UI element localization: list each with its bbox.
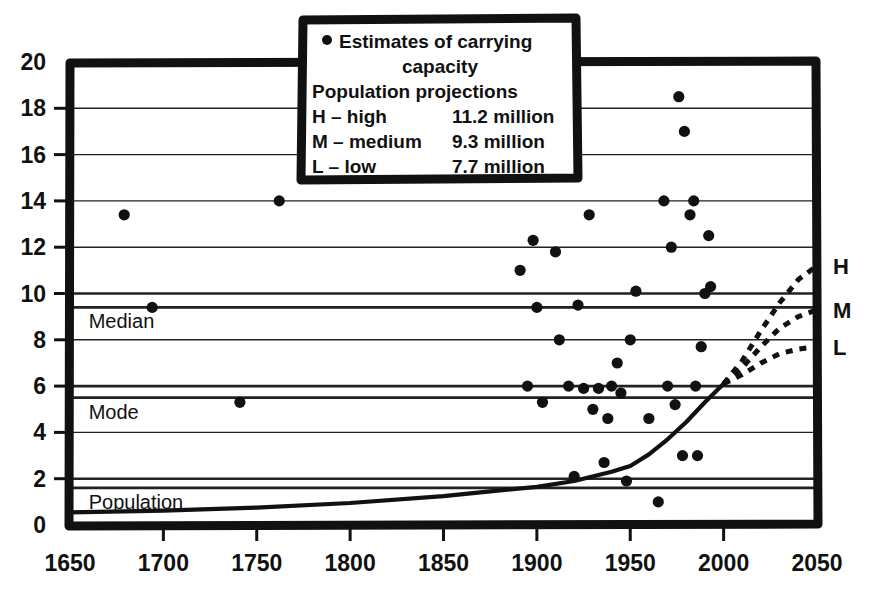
data-point — [119, 209, 130, 220]
data-point — [658, 195, 669, 206]
data-point — [670, 399, 681, 410]
data-point — [673, 91, 684, 102]
data-point — [584, 209, 595, 220]
population-label: Population — [89, 491, 184, 513]
x-tick-label-1750: 1750 — [231, 550, 282, 576]
chart-container: 02468101214161820 1650170017501800185019… — [0, 0, 877, 596]
y-tick-label-12: 12 — [20, 234, 46, 260]
data-point — [705, 281, 716, 292]
x-axis-tick-labels: 165017001750180018501900195020002050 — [44, 550, 842, 576]
data-point — [563, 381, 574, 392]
x-tick-label-1900: 1900 — [511, 550, 562, 576]
data-point — [692, 450, 703, 461]
y-tick-label-0: 0 — [33, 512, 46, 538]
population-carrying-capacity-chart: 02468101214161820 1650170017501800185019… — [0, 0, 877, 596]
projection-label-h: H — [833, 254, 849, 279]
data-point — [696, 341, 707, 352]
data-point — [587, 404, 598, 415]
data-point — [602, 413, 613, 424]
legend-row-m-value: 9.3 million — [452, 131, 545, 152]
data-point — [684, 209, 695, 220]
legend-row-h-label: H – high — [312, 106, 387, 127]
data-point — [679, 126, 690, 137]
data-point — [662, 381, 673, 392]
data-point — [625, 334, 636, 345]
data-point — [569, 471, 580, 482]
data-point — [528, 235, 539, 246]
x-tick-label-1950: 1950 — [605, 550, 656, 576]
data-point — [666, 242, 677, 253]
data-point — [643, 413, 654, 424]
data-point — [550, 246, 561, 257]
data-point — [234, 397, 245, 408]
y-tick-label-18: 18 — [20, 95, 46, 121]
x-tick-label-2000: 2000 — [698, 550, 749, 576]
legend: Estimates of carrying capacity Populatio… — [301, 18, 578, 180]
data-point — [593, 383, 604, 394]
data-point — [522, 381, 533, 392]
data-point — [612, 357, 623, 368]
data-point — [630, 286, 641, 297]
data-point — [572, 300, 583, 311]
data-point — [578, 383, 589, 394]
data-point — [606, 381, 617, 392]
legend-row-l-value: 7.7 million — [452, 156, 545, 177]
y-tick-label-16: 16 — [20, 142, 46, 168]
data-point — [274, 195, 285, 206]
data-point — [621, 475, 632, 486]
median-label: Median — [89, 310, 155, 332]
y-tick-label-8: 8 — [33, 327, 46, 353]
x-tick-label-1850: 1850 — [418, 550, 469, 576]
legend-row-m-label: M – medium — [312, 131, 422, 152]
x-tick-label-1650: 1650 — [44, 550, 95, 576]
data-point — [537, 397, 548, 408]
data-point — [703, 230, 714, 241]
projection-label-m: M — [833, 298, 851, 323]
y-tick-label-2: 2 — [33, 466, 46, 492]
data-point — [531, 302, 542, 313]
data-point — [599, 457, 610, 468]
data-point — [554, 334, 565, 345]
x-tick-label-2050: 2050 — [791, 550, 842, 576]
data-point — [688, 195, 699, 206]
data-point — [677, 450, 688, 461]
legend-line-3: Population projections — [312, 81, 518, 102]
y-tick-label-14: 14 — [20, 188, 46, 214]
projection-label-l: L — [833, 335, 846, 360]
data-point — [690, 381, 701, 392]
legend-row-h-value: 11.2 million — [452, 106, 554, 127]
data-point — [515, 265, 526, 276]
y-tick-label-20: 20 — [20, 49, 46, 75]
y-tick-label-6: 6 — [33, 373, 46, 399]
y-tick-label-4: 4 — [33, 419, 46, 445]
legend-row-l-label: L – low — [312, 156, 376, 177]
y-tick-label-10: 10 — [20, 281, 46, 307]
x-tick-label-1700: 1700 — [138, 550, 189, 576]
legend-line-2: capacity — [402, 56, 478, 77]
legend-bullet-icon — [322, 35, 332, 45]
mode-label: Mode — [89, 401, 139, 423]
data-point — [615, 387, 626, 398]
x-tick-label-1800: 1800 — [325, 550, 376, 576]
legend-line-1: Estimates of carrying — [339, 31, 532, 52]
data-point — [653, 496, 664, 507]
